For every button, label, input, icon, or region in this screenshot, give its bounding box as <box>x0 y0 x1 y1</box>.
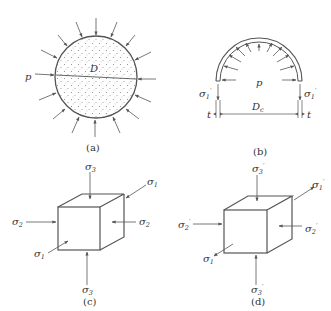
sigma1-lower-label: σ1 <box>34 248 45 261</box>
thickness-label-left: t <box>207 109 212 120</box>
sigma2-right-label: σ2 <box>139 216 150 229</box>
sigma2p-left-label: σ2′ <box>178 218 191 232</box>
sigma3p-bottom-label: σ3′ <box>251 283 264 297</box>
diameter-label-b: Dc <box>251 101 264 114</box>
stress-label-left: σ1′ <box>199 87 212 101</box>
caption-b: (b) <box>253 146 267 157</box>
cube-d-edges <box>224 196 292 253</box>
figure-c-cube: σ3 σ3 σ2 σ2 σ1 σ1 (c) <box>12 161 158 307</box>
stress-arrows-d <box>193 175 314 285</box>
diagram-canvas: p D (a) <box>0 0 331 311</box>
figure-a-sphere: p D (a) <box>25 18 156 153</box>
sigma1-upper-label: σ1 <box>147 176 158 189</box>
sigma3-top-label: σ3 <box>85 161 96 174</box>
thickness-label-right: t <box>307 109 312 120</box>
caption-d: (d) <box>251 296 265 307</box>
sigma3p-top-label: σ3′ <box>252 162 265 176</box>
diameter-label: D <box>89 63 98 74</box>
sigma2p-right-label: σ2′ <box>305 222 318 236</box>
sigma2-left-label: σ2 <box>12 216 23 229</box>
internal-pressure-arrows <box>222 43 296 80</box>
figure-d-cube: σ3′ σ3′ σ2′ σ2′ σ1′ σ1′ (d) <box>178 162 325 307</box>
figure-b-half-shell: p σ1′ σ1′ t t Dc (b) <box>199 38 317 157</box>
pressure-label-b: p <box>256 77 263 88</box>
stress-label-right: σ1′ <box>304 87 317 101</box>
pressure-label: p <box>25 71 32 82</box>
caption-c: (c) <box>83 296 97 307</box>
sigma1p-lower-label: σ1′ <box>203 252 216 266</box>
caption-a: (a) <box>86 142 100 153</box>
stress-arrows-c <box>26 172 146 285</box>
sigma1p-upper-label: σ1′ <box>312 178 325 192</box>
